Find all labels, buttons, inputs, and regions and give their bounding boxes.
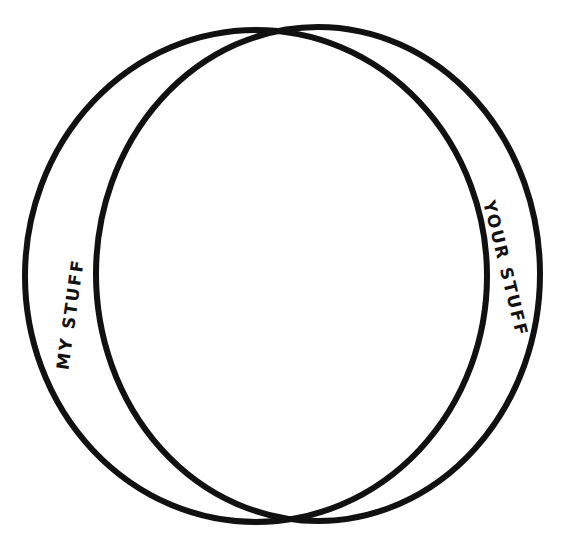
venn-diagram: MY STUFF YOUR STUFF: [0, 0, 568, 545]
your-stuff-circle: [96, 27, 540, 521]
my-stuff-label: MY STUFF: [52, 257, 87, 371]
